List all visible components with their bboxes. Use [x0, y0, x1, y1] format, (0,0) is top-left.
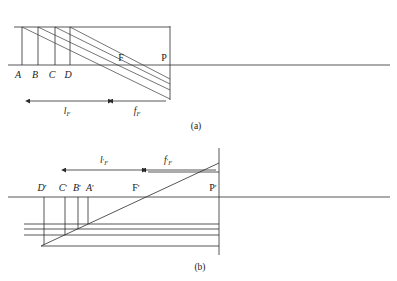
- panel-b-geometry: [8, 148, 390, 255]
- label-plane-P: P: [161, 52, 167, 63]
- panel-a-ray-B: [38, 27, 170, 90]
- label-point-C: C: [49, 69, 56, 80]
- label-point-B-prime-mark: ′: [79, 183, 81, 193]
- label-point-A-prime-mark: ′: [92, 183, 94, 193]
- label-point-D-prime: D′: [36, 182, 46, 193]
- label-point-D: D: [63, 69, 72, 80]
- label-dim-l: lF: [64, 106, 71, 117]
- label-dim-f-subscript: F: [135, 110, 140, 117]
- label-focus-F-prime: F′: [132, 182, 140, 193]
- label-plane-P-prime-mark: ′: [215, 183, 217, 193]
- caption-panel-b: (b): [194, 262, 205, 273]
- label-point-C-prime-mark: ′: [65, 183, 67, 193]
- label-dim-f: fF: [134, 106, 141, 117]
- optics-figure: A B C D F P lF fF (a) D′ C′: [0, 0, 397, 281]
- panel-b-labels: D′ C′ B′ A′ F′ P′ l′F f′F: [36, 155, 216, 273]
- panel-b-diagonal-ray: [41, 163, 219, 246]
- label-dim-l-prime: l′F: [100, 155, 108, 166]
- label-point-D-prime-mark: ′: [45, 183, 47, 193]
- panel-a-ray-A: [22, 27, 170, 99]
- panel-a-labels: A B C D F P lF fF (a): [14, 52, 201, 132]
- label-plane-P-prime: P′: [209, 182, 217, 193]
- label-dim-f-prime-subscript: F: [167, 159, 172, 166]
- label-point-A-prime: A′: [85, 182, 94, 193]
- label-dim-l-prime-subscript: F: [103, 159, 108, 166]
- caption-panel-a: (a): [191, 121, 202, 132]
- label-point-B-prime: B′: [73, 182, 81, 193]
- label-point-C-prime: C′: [59, 182, 68, 193]
- label-focus-F-prime-mark: ′: [138, 183, 140, 193]
- label-point-B: B: [32, 69, 38, 80]
- label-dim-l-subscript: F: [65, 110, 70, 117]
- panel-a-ray-C: [55, 27, 170, 84]
- label-point-A: A: [14, 69, 22, 80]
- label-focus-F: F: [118, 52, 124, 63]
- panel-a-geometry: [8, 26, 390, 101]
- label-dim-f-prime: f′F: [164, 155, 172, 166]
- figure-canvas: A B C D F P lF fF (a) D′ C′: [0, 0, 397, 281]
